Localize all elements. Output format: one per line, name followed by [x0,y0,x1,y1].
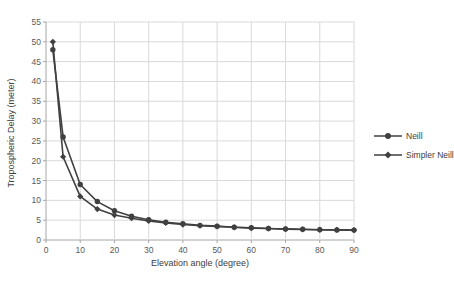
data-point-diamond [248,225,254,231]
data-point-diamond [231,224,237,230]
legend-label-simpler-neill: Simpler Neill [406,150,454,160]
x-tick-label: 40 [178,245,188,255]
data-point-diamond [282,226,288,232]
data-point-circle [78,182,83,187]
y-axis-title: Tropospheric Delay (meter) [6,78,16,187]
y-tick-label: 5 [36,215,41,225]
y-tick-label: 0 [36,235,41,245]
x-tick-label: 70 [281,245,291,255]
x-tick-label: 50 [212,245,222,255]
x-tick-label: 10 [75,245,85,255]
data-point-diamond [317,227,323,233]
y-tick-label: 25 [32,136,42,146]
x-tick-label: 20 [110,245,120,255]
y-tick-label: 30 [32,116,42,126]
line-diamond-marker-icon [373,150,403,160]
series-lines [50,39,357,233]
line-circle-marker-icon [373,131,403,141]
legend: Neill Simpler Neill [373,131,454,160]
gridlines [46,22,354,240]
data-point-diamond [334,227,340,233]
x-tick-label: 0 [44,245,49,255]
axis-tick-marks [43,22,354,243]
y-tick-label: 55 [32,17,42,27]
y-tick-label: 35 [32,96,42,106]
legend-label-neill: Neill [406,131,423,141]
y-tick-label: 50 [32,37,42,47]
y-tick-label: 15 [32,176,42,186]
x-tick-label: 80 [315,245,325,255]
data-point-diamond [60,154,66,160]
data-point-diamond [351,227,357,233]
y-tick-label: 40 [32,76,42,86]
data-point-diamond [214,223,220,229]
x-tick-label: 90 [349,245,359,255]
data-point-diamond [197,223,203,229]
y-tick-label: 45 [32,57,42,67]
y-tick-label: 20 [32,156,42,166]
x-axis-title: Elevation angle (degree) [151,258,249,268]
chart-figure: 0510152025303540455055010203040506070809… [0,0,454,283]
x-tick-label: 30 [144,245,154,255]
data-point-diamond [50,39,56,45]
y-tick-label: 10 [32,195,42,205]
data-point-diamond [111,212,117,218]
data-point-circle [95,199,100,204]
data-point-diamond [300,226,306,232]
legend-item-neill: Neill [373,131,454,141]
x-tick-label: 60 [247,245,257,255]
legend-item-simpler-neill: Simpler Neill [373,150,454,160]
data-point-diamond [265,225,271,231]
